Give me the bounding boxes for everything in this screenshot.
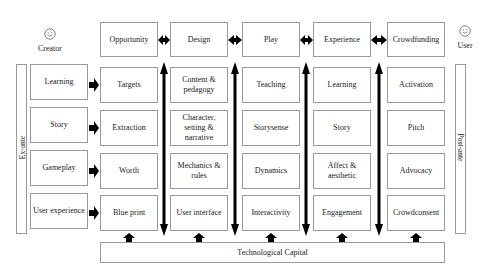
right-arrow-icon bbox=[89, 78, 99, 220]
arrows-layer bbox=[0, 0, 483, 272]
up-arrow-icon bbox=[123, 233, 422, 242]
vertical-double-arrow-icon bbox=[160, 62, 383, 236]
double-arrow-icon bbox=[158, 35, 387, 45]
